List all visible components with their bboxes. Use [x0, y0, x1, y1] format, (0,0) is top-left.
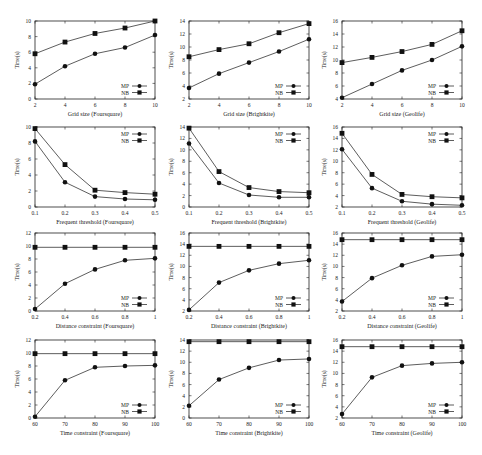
circle-marker [247, 268, 252, 273]
circle-marker [460, 252, 465, 257]
plot-frame [189, 21, 309, 99]
circle-marker [307, 195, 312, 200]
circle-marker [153, 33, 158, 38]
y-tick-label: 8 [28, 34, 31, 40]
circle-marker [187, 308, 192, 313]
square-marker [247, 339, 252, 344]
square-marker [291, 409, 295, 413]
legend: MPNB [121, 83, 147, 96]
circle-marker [292, 132, 296, 136]
x-tick-label: 0.2 [339, 314, 346, 320]
y-tick-label: 12 [333, 147, 339, 153]
circle-marker [400, 68, 405, 73]
x-axis-label: Grid size (Foursquare) [68, 111, 122, 118]
x-tick-label: 0.2 [369, 210, 376, 216]
y-tick-label: 6 [28, 156, 31, 162]
square-marker [93, 351, 98, 356]
x-tick-label: 70 [62, 421, 68, 427]
y-tick-label: 6 [182, 170, 185, 176]
x-tick-label: 2 [34, 102, 37, 108]
circle-marker [217, 181, 222, 186]
x-axis-label: Grid size (Geolife) [379, 111, 424, 118]
circle-marker [93, 365, 98, 370]
legend-label: MP [121, 295, 129, 301]
legend-label: NB [275, 90, 283, 96]
y-tick-label: 10 [26, 18, 32, 24]
x-tick-label: 4 [64, 102, 67, 108]
x-tick-label: 1 [461, 314, 464, 320]
legend-label: MP [428, 402, 436, 408]
x-tick-label: 10 [459, 102, 465, 108]
square-marker [444, 409, 448, 413]
y-tick-label: 12 [333, 44, 339, 50]
legend-label: NB [428, 138, 436, 144]
y-tick-label: 14 [180, 124, 186, 130]
circle-marker [460, 44, 465, 49]
legend-label: NB [121, 90, 129, 96]
circle-marker [430, 202, 435, 207]
square-marker [430, 237, 435, 242]
x-axis-label: Distance constraint (Geolife) [367, 323, 437, 330]
x-tick-label: 6 [401, 102, 404, 108]
x-tick-label: 100 [458, 421, 467, 427]
circle-marker [292, 296, 296, 300]
x-tick-label: 90 [122, 421, 128, 427]
circle-marker [292, 84, 296, 88]
square-marker [444, 138, 448, 142]
series-line-mp [35, 258, 155, 309]
legend-label: NB [275, 302, 283, 308]
x-tick-label: 0.4 [216, 314, 223, 320]
circle-marker [460, 360, 465, 365]
x-tick-label: 0.1 [339, 210, 346, 216]
series-line-mp [189, 260, 309, 310]
circle-marker [277, 49, 282, 54]
series-line-nb [189, 128, 309, 193]
y-tick-label: 14 [333, 135, 339, 141]
square-marker [291, 302, 295, 306]
series-line-nb [189, 24, 309, 57]
y-tick-label: 14 [180, 241, 186, 247]
square-marker [277, 244, 282, 249]
y-tick-label: 10 [26, 124, 32, 130]
square-marker [291, 90, 295, 94]
plot-frame [342, 233, 462, 311]
circle-marker [138, 84, 142, 88]
x-tick-label: 0.3 [92, 210, 99, 216]
x-tick-label: 60 [339, 421, 345, 427]
square-marker [370, 237, 375, 242]
series-line-mp [35, 365, 155, 416]
y-tick-label: 8 [335, 170, 338, 176]
circle-marker [138, 296, 142, 300]
legend-label: MP [275, 402, 283, 408]
y-tick-label: 4 [182, 83, 185, 89]
y-tick-label: 6 [335, 83, 338, 89]
circle-marker [460, 203, 465, 208]
circle-marker [370, 375, 375, 380]
y-tick-label: 6 [28, 376, 31, 382]
x-tick-label: 0.4 [62, 314, 69, 320]
square-marker [33, 51, 38, 56]
circle-marker [370, 186, 375, 191]
y-tick-label: 14 [333, 241, 339, 247]
y-tick-label: 4 [28, 282, 31, 288]
chart-panel: 2468101214160.20.40.60.81Distance constr… [321, 230, 464, 330]
x-tick-label: 0.6 [399, 314, 406, 320]
y-tick-label: 8 [182, 57, 185, 63]
circle-marker [370, 82, 375, 87]
chart-grid: 0246810246810Grid size (Foursquare)Time(… [0, 0, 482, 455]
y-tick-label: 10 [333, 263, 339, 269]
legend-label: NB [428, 90, 436, 96]
y-tick-label: 12 [26, 230, 32, 236]
y-axis-label: Time(s) [168, 370, 175, 387]
square-marker [340, 237, 345, 242]
x-tick-label: 0.2 [186, 314, 193, 320]
y-tick-label: 2 [28, 402, 31, 408]
y-tick-label: 16 [333, 230, 339, 236]
x-axis-label: Time constraint (Foursquare) [60, 430, 130, 437]
square-marker [93, 245, 98, 250]
plot-frame [189, 340, 309, 418]
square-marker [307, 21, 312, 26]
y-tick-label: 8 [182, 275, 185, 281]
y-tick-label: 2 [182, 96, 185, 102]
circle-marker [307, 37, 312, 42]
